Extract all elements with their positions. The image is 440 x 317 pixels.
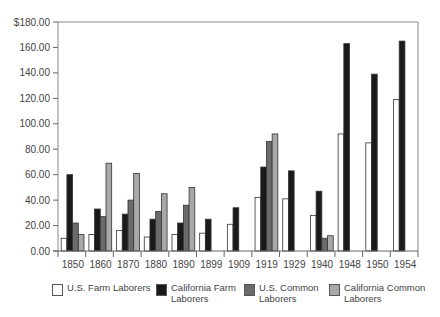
y-tick-label: 80.00 (25, 144, 50, 155)
x-tick-label: 1948 (339, 259, 362, 270)
bar (78, 234, 84, 251)
y-tick-label: 20.00 (25, 220, 50, 231)
bar (73, 223, 79, 251)
bar (106, 163, 112, 251)
bar (172, 234, 178, 251)
y-tick-label: 140.00 (19, 67, 50, 78)
bar (117, 231, 123, 251)
bar (134, 173, 140, 251)
bar (288, 171, 294, 251)
bar (261, 167, 267, 251)
legend-label: U.S. Common Laborers (259, 283, 319, 304)
x-tick-label: 1880 (145, 259, 168, 270)
bar (205, 219, 211, 251)
bar (67, 175, 73, 251)
bar (328, 236, 334, 251)
bar-group-1954 (394, 41, 405, 251)
bar (189, 187, 195, 251)
bar (200, 233, 206, 251)
bar (150, 219, 156, 251)
bar (399, 41, 405, 251)
bar (255, 198, 261, 251)
bar-group-1909 (227, 208, 238, 251)
bar (283, 199, 289, 251)
legend-item-ca-farm: California Farm Laborers (156, 283, 236, 304)
y-axis: $180.00160.00140.00120.00100.0080.0060.0… (14, 17, 58, 257)
bar (322, 238, 328, 251)
bar-group-1850 (61, 175, 84, 251)
bar (95, 209, 101, 251)
bar (266, 142, 272, 251)
legend-swatch-icon (52, 284, 63, 296)
bar (89, 234, 95, 251)
y-tick-label: 160.00 (19, 42, 50, 53)
x-axis: 1850186018701880189018991909191919291940… (53, 251, 418, 270)
x-tick-label: 1870 (117, 259, 140, 270)
legend-swatch-icon (244, 284, 255, 296)
legend-item-ca-common: California Common Laborers (329, 283, 425, 304)
x-tick-label: 1899 (200, 259, 223, 270)
bar (316, 191, 322, 251)
bar-group-1919 (255, 134, 278, 251)
bar (61, 238, 67, 251)
y-tick-label: 40.00 (25, 195, 50, 206)
bar (366, 143, 372, 251)
bar (161, 194, 167, 251)
bar (178, 223, 184, 251)
y-tick-label: $180.00 (14, 17, 51, 28)
bar (338, 134, 344, 251)
bar (156, 212, 162, 251)
x-tick-label: 1940 (311, 259, 334, 270)
bar (272, 134, 278, 251)
y-tick-label: 100.00 (19, 118, 50, 129)
legend: U.S. Farm Laborers California Farm Labor… (0, 283, 440, 313)
legend-swatch-icon (329, 284, 340, 296)
y-tick-label: 60.00 (25, 169, 50, 180)
bar-group-1890 (172, 187, 195, 251)
bar (233, 208, 239, 251)
x-tick-label: 1890 (172, 259, 195, 270)
legend-label: U.S. Farm Laborers (67, 283, 150, 294)
bar (227, 224, 233, 251)
legend-label: California Farm Laborers (171, 283, 236, 304)
bar-chart: $180.00160.00140.00120.00100.0080.0060.0… (0, 0, 440, 280)
x-tick-label: 1860 (89, 259, 112, 270)
bar (394, 100, 400, 251)
x-tick-label: 1954 (394, 259, 417, 270)
bar-group-1929 (283, 171, 294, 251)
bar-group-1950 (366, 74, 377, 251)
bar (344, 44, 350, 251)
bar-group-1870 (117, 173, 140, 251)
x-tick-label: 1909 (228, 259, 251, 270)
legend-swatch-icon (156, 284, 167, 296)
bar-group-1940 (310, 191, 333, 251)
bar (372, 74, 378, 251)
legend-label: California Common Laborers (344, 283, 425, 304)
x-tick-label: 1950 (366, 259, 389, 270)
x-tick-label: 1850 (62, 259, 85, 270)
bar (310, 215, 316, 251)
bar (128, 200, 134, 251)
bar (144, 237, 150, 251)
bar-group-1899 (200, 219, 211, 251)
legend-item-us-farm: U.S. Farm Laborers (52, 283, 150, 296)
y-tick-label: 120.00 (19, 93, 50, 104)
legend-item-us-common: U.S. Common Laborers (244, 283, 319, 304)
bar-group-1880 (144, 194, 167, 251)
y-tick-label: 0.00 (31, 246, 51, 257)
bar (122, 214, 128, 251)
x-tick-label: 1929 (283, 259, 306, 270)
bar-group-1948 (338, 44, 349, 251)
bar-group-1860 (89, 163, 112, 251)
bars (61, 41, 405, 251)
bar (100, 217, 106, 251)
bar (183, 205, 189, 251)
x-tick-label: 1919 (256, 259, 279, 270)
